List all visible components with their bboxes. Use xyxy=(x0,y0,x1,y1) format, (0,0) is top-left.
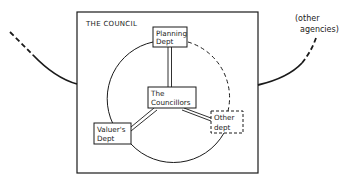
councillors-line1: The xyxy=(150,89,165,98)
arc-planning-valuers xyxy=(107,42,153,124)
council-diagram: THE COUNCIL Planning Dept The Councillor… xyxy=(0,0,359,184)
link-councillors-valuers xyxy=(131,108,157,131)
other-agencies-line1: (other xyxy=(295,14,320,23)
node-councillors: The Councillors xyxy=(148,87,196,108)
link-councillors-planning xyxy=(168,47,172,87)
councillors-line2: Councillors xyxy=(151,98,191,107)
node-planning-dept: Planning Dept xyxy=(153,27,187,47)
external-link-right xyxy=(258,38,316,85)
valuers-line2: Dept xyxy=(97,134,115,143)
other-agencies-line2: agencies) xyxy=(300,25,339,34)
other-dept-line2: dept xyxy=(214,123,231,132)
valuers-line1: Valuer's xyxy=(97,125,126,134)
external-link-left xyxy=(10,32,77,84)
other-dept-line1: Other xyxy=(214,113,234,122)
node-other-dept: Other dept xyxy=(211,111,243,133)
council-title: THE COUNCIL xyxy=(85,20,137,28)
link-councillors-other xyxy=(182,108,211,121)
node-valuers-dept: Valuer's Dept xyxy=(94,123,131,144)
planning-line2: Dept xyxy=(156,37,174,46)
arc-valuers-other xyxy=(131,133,224,163)
